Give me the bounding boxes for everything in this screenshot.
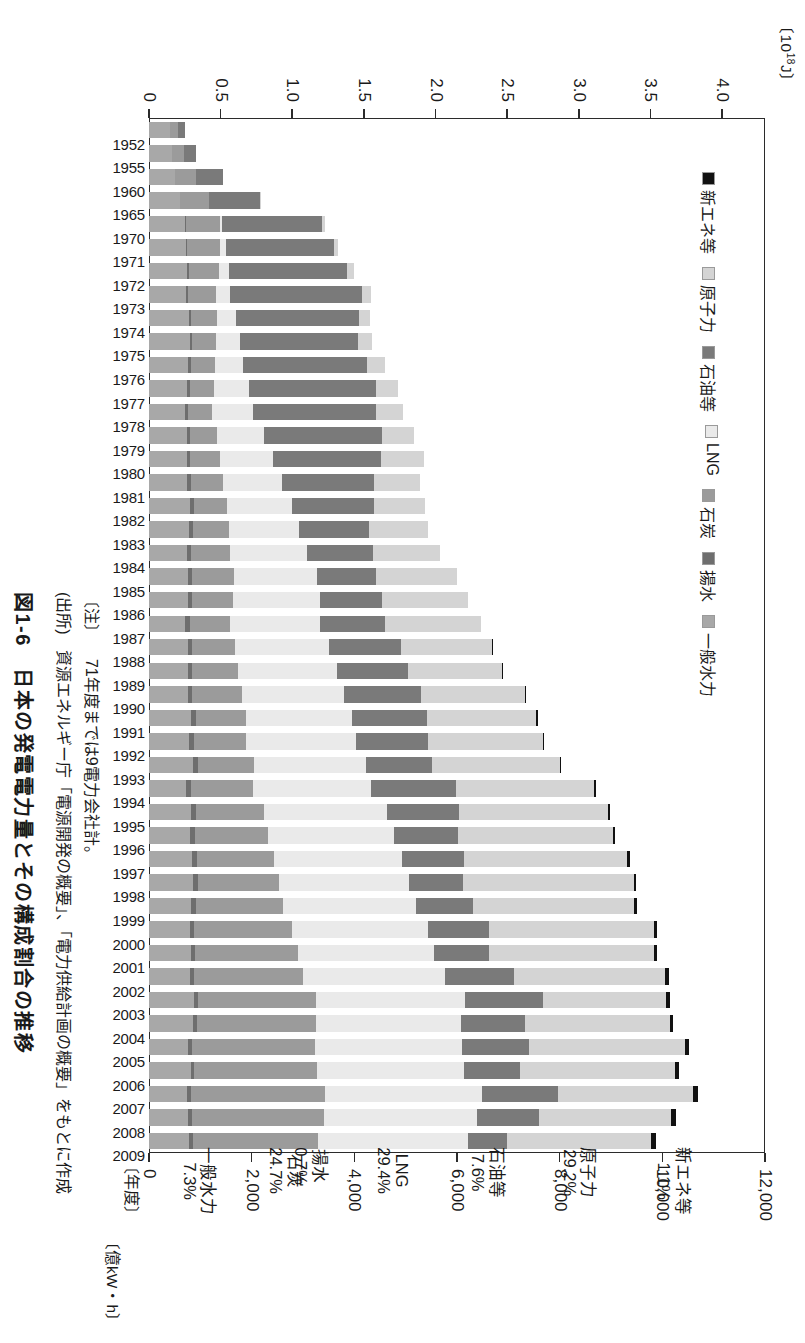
- bar-segment: [230, 545, 307, 561]
- bar-segment: [220, 451, 273, 467]
- bar-segment: [260, 192, 261, 208]
- bar-column: [149, 380, 398, 396]
- bar-segment: [220, 216, 223, 232]
- bar-segment: [149, 169, 175, 185]
- bar-segment: [459, 804, 608, 820]
- source-text: 資源エネルギー庁「電源開発の概要」、「電力供給計画の概要」をもとに作成: [55, 650, 72, 1194]
- bar-segment: [175, 169, 197, 185]
- primary-tick-label: 2.0: [427, 78, 444, 102]
- bar-segment: [186, 780, 191, 796]
- bar-segment: [149, 945, 191, 961]
- bar-segment: [188, 686, 192, 702]
- bar-segment: [236, 310, 359, 326]
- bar-column: [149, 192, 261, 208]
- bar-segment: [356, 733, 428, 749]
- bar-segment: [149, 357, 188, 373]
- bar-segment: [242, 686, 345, 702]
- bar-segment: [187, 451, 190, 467]
- bar-segment: [490, 945, 654, 961]
- bar-segment: [149, 686, 188, 702]
- year-tick-label: 1978: [112, 418, 145, 435]
- bar-segment: [279, 874, 409, 890]
- bar-segment: [193, 757, 198, 773]
- bar-segment: [317, 1062, 465, 1078]
- bar-segment: [149, 898, 191, 914]
- secondary-tick-mark: [456, 1153, 458, 1162]
- bar-segment: [189, 521, 193, 537]
- bar-segment: [149, 333, 190, 349]
- bar-segment: [226, 239, 334, 255]
- bar-segment: [464, 851, 628, 867]
- bar-segment: [654, 921, 657, 937]
- bar-segment: [212, 404, 253, 420]
- bar-segment: [191, 1086, 325, 1102]
- source-line: (出所) 資源エネルギー庁「電源開発の概要」、「電力供給計画の概要」をもとに作成: [53, 592, 77, 1194]
- bar-segment: [198, 757, 254, 773]
- bar-segment: [149, 192, 180, 208]
- bar-segment: [456, 780, 595, 796]
- bar-segment: [149, 780, 186, 796]
- bar-segment: [193, 521, 229, 537]
- legend-swatch-icon: [703, 267, 716, 280]
- bar-segment: [219, 263, 229, 279]
- bar-segment: [240, 333, 358, 349]
- bar-segment: [235, 639, 329, 655]
- bar-segment: [381, 451, 424, 467]
- year-tick-label: 1973: [112, 300, 145, 317]
- series-callout: 新エネ等1.1%: [655, 1147, 692, 1215]
- bar-segment: [558, 1086, 694, 1102]
- bar-segment: [409, 874, 463, 890]
- bar-segment: [320, 592, 382, 608]
- bar-segment: [186, 216, 220, 232]
- bar-segment: [186, 286, 188, 302]
- bar-segment: [229, 263, 347, 279]
- bar-segment: [149, 498, 190, 514]
- bar-segment: [303, 968, 445, 984]
- legend-label: 石炭: [697, 507, 721, 539]
- bar-segment: [347, 263, 354, 279]
- legend-item: 揚水: [697, 552, 721, 602]
- note-text: 71年度までは9電力会社計。: [83, 659, 100, 862]
- bar-segment: [299, 521, 368, 537]
- year-tick-label: 2001: [112, 959, 145, 976]
- year-tick-label: 1988: [112, 653, 145, 670]
- bar-segment: [385, 616, 481, 632]
- bar-column: [149, 1039, 689, 1055]
- bar-segment: [671, 1109, 676, 1125]
- bar-segment: [264, 427, 382, 443]
- year-tick-label: 2007: [112, 1100, 145, 1117]
- bar-segment: [539, 1109, 671, 1125]
- year-tick-label: 1985: [112, 583, 145, 600]
- bar-segment: [685, 1039, 689, 1055]
- bar-segment: [408, 663, 502, 679]
- bar-segment: [282, 474, 374, 490]
- year-tick-label: 1993: [112, 771, 145, 788]
- bar-segment: [189, 263, 220, 279]
- bar-segment: [192, 592, 233, 608]
- year-tick-label: 1965: [112, 206, 145, 223]
- bar-segment: [194, 733, 247, 749]
- bar-segment: [428, 921, 490, 937]
- bar-segment: [180, 192, 181, 208]
- legend-item: 石油等: [697, 346, 721, 412]
- bar-segment: [149, 1086, 187, 1102]
- primary-tick-label: 3.0: [570, 78, 587, 102]
- bar-segment: [172, 145, 184, 161]
- bar-segment: [190, 451, 220, 467]
- bar-segment: [233, 592, 320, 608]
- year-tick-label: 1982: [112, 512, 145, 529]
- bar-segment: [195, 945, 298, 961]
- bar-segment: [608, 804, 610, 820]
- bar-segment: [560, 757, 562, 773]
- bar-column: [149, 874, 636, 890]
- bar-segment: [401, 639, 492, 655]
- callout-series-value: 29.4%: [375, 1147, 393, 1194]
- year-tick-label: 2002: [112, 983, 145, 1000]
- bar-segment: [149, 804, 191, 820]
- year-tick-label: 1974: [112, 324, 145, 341]
- bar-segment: [216, 333, 240, 349]
- bar-segment: [382, 592, 468, 608]
- bar-segment: [594, 780, 596, 796]
- bar-segment: [246, 710, 352, 726]
- bar-segment: [149, 733, 189, 749]
